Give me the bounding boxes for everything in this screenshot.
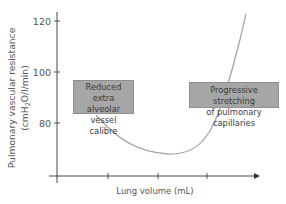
y-tick-label: 100 bbox=[33, 67, 51, 78]
y-axis-label: Pulmonary vascular resistance bbox=[6, 27, 17, 168]
annotation-line: alveolar vessel bbox=[74, 104, 133, 126]
annotation-capillary-stretching: Progressive stretching of pulmonary capi… bbox=[189, 82, 279, 108]
annotation-line: calibre bbox=[74, 126, 133, 137]
y-axis-units: (cmH2O/l/min) bbox=[19, 65, 32, 131]
x-axis-arrow-icon bbox=[254, 173, 260, 179]
y-tick-label: 80 bbox=[39, 118, 51, 129]
annotation-reduced-vessel-calibre: Reduced extra alveolar vessel calibre bbox=[73, 80, 134, 114]
x-axis-label: Lung volume (mL) bbox=[116, 186, 193, 196]
annotation-line: Progressive stretching bbox=[190, 85, 278, 107]
annotation-line: Reduced extra bbox=[74, 82, 133, 104]
annotation-line: of pulmonary capillaries bbox=[190, 107, 278, 129]
y-tick-label: 120 bbox=[33, 16, 51, 27]
